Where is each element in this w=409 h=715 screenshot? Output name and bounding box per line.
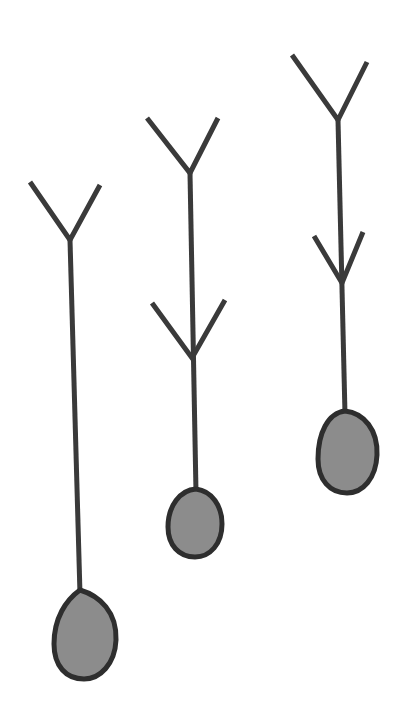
bulb	[168, 489, 222, 557]
bulb	[318, 411, 377, 493]
illustration-canvas	[0, 0, 409, 715]
